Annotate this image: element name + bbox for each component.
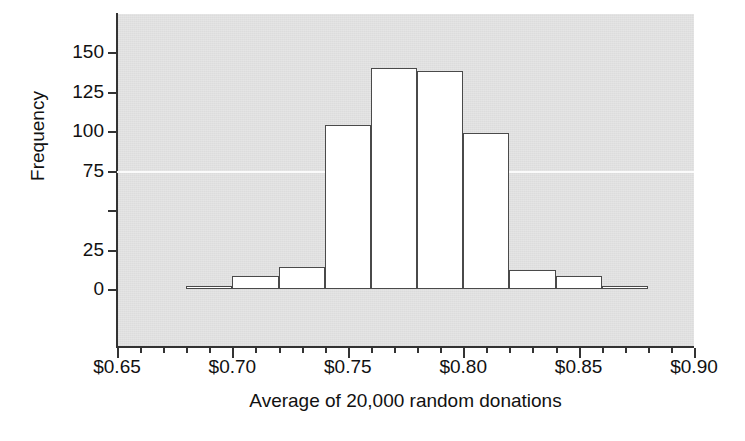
y-tick xyxy=(108,171,117,173)
y-tick-label: 100 xyxy=(44,121,104,140)
histogram-bar xyxy=(325,125,371,289)
x-tick-label: $0.80 xyxy=(408,357,518,376)
histogram-bar xyxy=(602,286,648,289)
x-tick-minor xyxy=(186,348,188,353)
x-tick-minor xyxy=(279,348,281,353)
x-tick-minor xyxy=(671,348,673,353)
histogram-bar xyxy=(417,71,463,289)
x-tick-minor xyxy=(302,348,304,353)
histogram-bar xyxy=(463,133,509,289)
y-tick xyxy=(108,289,117,291)
x-tick-minor xyxy=(371,348,373,353)
y-tick xyxy=(108,131,117,133)
x-tick-minor xyxy=(486,348,488,353)
x-tick-minor xyxy=(325,348,327,353)
y-tick-label: 150 xyxy=(44,42,104,61)
x-tick-minor xyxy=(394,348,396,353)
plot-area xyxy=(117,14,694,347)
histogram-bar xyxy=(509,270,555,289)
y-tick-label: 25 xyxy=(44,240,104,259)
x-tick-minor xyxy=(209,348,211,353)
y-tick xyxy=(108,250,117,252)
x-tick-minor xyxy=(532,348,534,353)
histogram-bar xyxy=(556,276,602,289)
histogram-bar xyxy=(232,276,278,289)
x-tick-label: $0.70 xyxy=(177,357,287,376)
x-tick-minor xyxy=(255,348,257,353)
y-tick-label: 125 xyxy=(44,82,104,101)
x-tick-minor xyxy=(509,348,511,353)
x-tick-minor xyxy=(648,348,650,353)
x-tick-minor xyxy=(602,348,604,353)
histogram-bars xyxy=(117,14,694,347)
x-tick-minor xyxy=(163,348,165,353)
y-tick-label: 0 xyxy=(44,279,104,298)
y-axis-title: Frequency xyxy=(27,36,49,236)
histogram-bar xyxy=(279,267,325,289)
y-tick xyxy=(108,210,117,212)
x-tick-label: $0.85 xyxy=(524,357,634,376)
histogram-figure: 15012510075250 $0.65$0.70$0.75$0.80$0.85… xyxy=(0,0,745,441)
y-tick xyxy=(108,52,117,54)
x-tick-label: $0.90 xyxy=(639,357,745,376)
y-tick-label: 75 xyxy=(44,161,104,180)
x-tick-minor xyxy=(556,348,558,353)
x-tick-minor xyxy=(417,348,419,353)
x-tick-label: $0.65 xyxy=(62,357,172,376)
x-tick-minor xyxy=(625,348,627,353)
histogram-bar xyxy=(371,68,417,289)
x-tick-minor xyxy=(440,348,442,353)
x-tick-minor xyxy=(140,348,142,353)
y-tick xyxy=(108,92,117,94)
x-tick-label: $0.75 xyxy=(293,357,403,376)
x-axis-title: Average of 20,000 random donations xyxy=(117,390,694,412)
histogram-bar xyxy=(186,286,232,289)
